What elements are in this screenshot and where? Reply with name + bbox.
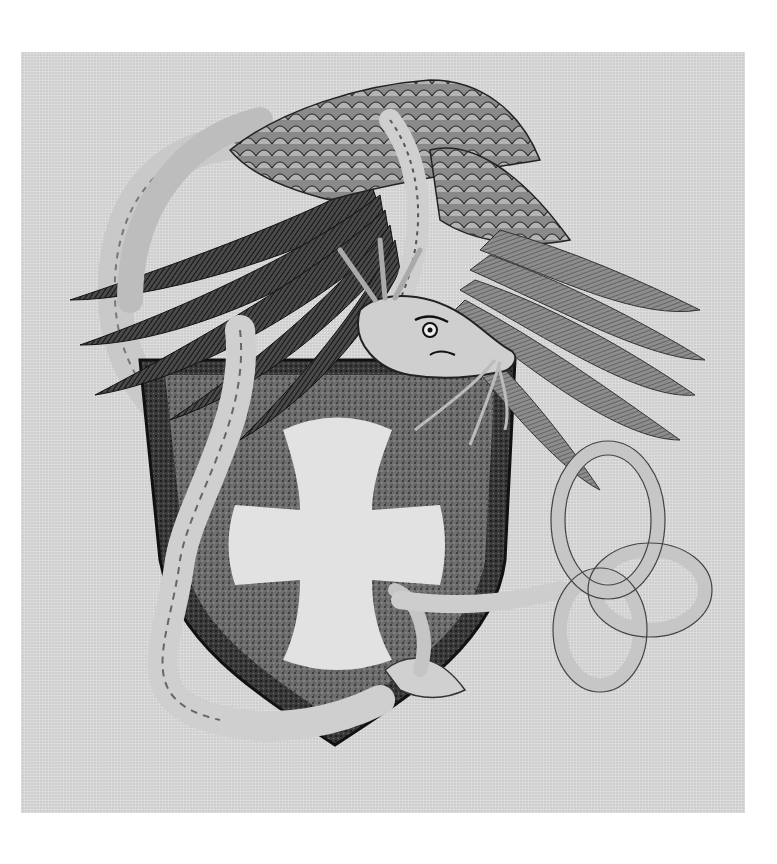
dragon-shield-illustration (0, 0, 777, 864)
knot-tail (558, 448, 705, 685)
